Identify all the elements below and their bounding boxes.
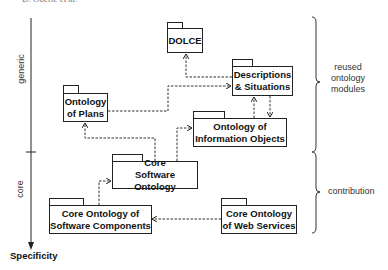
package-body: Core Software Ontology	[112, 161, 198, 189]
package-label: Software Ontology	[113, 169, 197, 193]
axis-region-core: core	[15, 175, 25, 203]
package-body: Ontology of Plans	[63, 93, 108, 122]
package-body: DOLCE	[167, 28, 203, 53]
dep-csc-to-cso	[99, 181, 111, 205]
package-body: Core Ontology of Web Services	[221, 205, 297, 234]
package-label: Core Ontology of	[50, 208, 151, 220]
package-label: of Web Services	[222, 220, 295, 232]
dep-plans-to-ds	[108, 86, 231, 111]
brace-label-reused: reused ontology modules	[326, 62, 370, 95]
package-label: Software Components	[50, 220, 151, 232]
package-label: Ontology	[65, 96, 107, 108]
brace-label-contribution: contribution	[328, 186, 375, 196]
package-label: Information Objects	[195, 133, 285, 145]
package-label: Core Ontology	[222, 208, 295, 220]
axis-region-generic: generic	[16, 52, 26, 86]
package-label: & Situations	[234, 81, 292, 93]
brace-label-line: modules	[326, 84, 370, 95]
brace-contribution	[312, 152, 320, 233]
brace-reused	[312, 17, 320, 152]
package-body: Ontology of Information Objects	[193, 118, 287, 147]
package-label: DOLCE	[168, 35, 201, 47]
brace-label-line: ontology	[326, 73, 370, 84]
specificity-axis	[26, 18, 36, 250]
package-label: of Plans	[65, 108, 107, 120]
brace-label-line: reused	[326, 62, 370, 73]
package-label: Core	[113, 157, 197, 169]
package-body: Descriptions & Situations	[232, 66, 293, 96]
package-label: Ontology of	[195, 121, 285, 133]
package-label: Descriptions	[234, 69, 292, 81]
axis-label-specificity: Specificity	[10, 250, 58, 261]
package-body: Core Ontology of Software Components	[49, 205, 152, 234]
dep-ds-to-dolce	[186, 54, 232, 77]
